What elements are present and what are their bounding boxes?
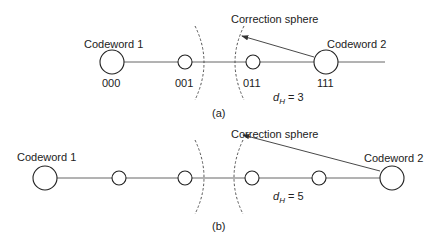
node-bits-000: 000	[102, 77, 120, 89]
intermediate-node	[245, 171, 259, 185]
sphere-radius-arrow	[243, 135, 380, 171]
node-bits-001: 001	[175, 77, 193, 89]
hamming-distance-label: dH = 3	[273, 91, 304, 106]
node-bits-011: 011	[243, 77, 261, 89]
correction-sphere-left	[195, 26, 204, 100]
hamming-distance-diagram: Codeword 1 Codeword 2 Correction sphere …	[0, 0, 435, 245]
correction-sphere-label: Correction sphere	[231, 13, 318, 25]
codeword-1-label: Codeword 1	[17, 151, 76, 163]
intermediate-node-001	[178, 55, 192, 69]
panel-a: Codeword 1 Codeword 2 Correction sphere …	[84, 13, 386, 119]
correction-sphere-right	[234, 140, 243, 214]
codeword-2-node	[314, 50, 338, 74]
codeword-1-node	[33, 166, 57, 190]
codeword-2-node	[380, 166, 404, 190]
correction-sphere-left	[195, 140, 204, 214]
hamming-distance-label: dH = 5	[273, 190, 304, 205]
intermediate-node-011	[246, 55, 260, 69]
node-bits-111: 111	[317, 77, 334, 89]
caption-b: (b)	[212, 220, 225, 232]
codeword-2-label: Codeword 2	[327, 38, 386, 50]
codeword-1-label: Codeword 1	[84, 38, 143, 50]
intermediate-node	[178, 171, 192, 185]
intermediate-node	[112, 171, 126, 185]
sphere-radius-arrow	[242, 36, 314, 57]
codeword-2-label: Codeword 2	[364, 152, 423, 164]
caption-a: (a)	[212, 107, 225, 119]
panel-b: Codeword 1 Codeword 2 Correction sphere …	[17, 128, 423, 232]
correction-sphere-label: Correction sphere	[231, 128, 318, 140]
codeword-1-node	[100, 50, 124, 74]
intermediate-node	[312, 171, 326, 185]
